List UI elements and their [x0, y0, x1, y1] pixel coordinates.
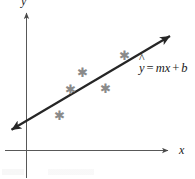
equals-sign: =: [145, 61, 156, 75]
slope-variable: m: [156, 61, 165, 75]
regression-figure: ✱ ✱ ✱ ✱ ✱ x y ^y=mx+b: [0, 0, 195, 179]
data-point-marker: ✱: [77, 66, 88, 79]
data-point-marker: ✱: [100, 82, 111, 95]
x-axis-label: x: [179, 144, 184, 156]
hat-accent: ^: [139, 53, 145, 65]
y-hat-variable: ^y: [139, 62, 145, 75]
intercept-variable: b: [181, 61, 187, 75]
regression-line-left-arrow: [12, 127, 17, 130]
page-scan-artifact: [2, 169, 94, 175]
data-point-marker: ✱: [54, 109, 65, 122]
regression-equation-label: ^y=mx+b: [139, 62, 188, 75]
plus-sign: +: [170, 61, 181, 75]
regression-line: [12, 36, 171, 130]
figure-canvas: [0, 0, 195, 179]
y-axis-label: y: [21, 0, 26, 7]
data-point-marker: ✱: [119, 49, 130, 62]
data-point-marker: ✱: [65, 83, 76, 96]
regression-line-segment: [16, 36, 170, 127]
